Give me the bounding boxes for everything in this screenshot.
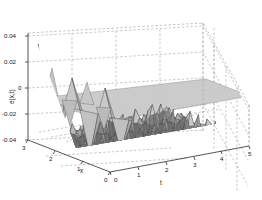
z-tick-0: 0.04 bbox=[4, 33, 16, 39]
surface-mesh bbox=[31, 44, 250, 180]
z-tick-2: 0 bbox=[18, 85, 21, 91]
figure-canvas: 0.04 0.02 0 -0.02 -0.04 3 2 1 0 0 1 2 3 … bbox=[0, 0, 262, 200]
surface-plot-svg bbox=[0, 0, 262, 200]
t-tick-2: 2 bbox=[165, 167, 168, 173]
x-axis-label: x bbox=[80, 168, 83, 174]
t-tick-1: 1 bbox=[137, 172, 140, 178]
t-tick-5: 5 bbox=[248, 151, 251, 157]
mesh-dense-oscillations bbox=[45, 104, 249, 180]
x-tick-0: 0 bbox=[104, 177, 107, 183]
t-tick-4: 4 bbox=[220, 156, 223, 162]
z-axis-label: e(x,t) bbox=[9, 89, 15, 104]
z-axis-ticks bbox=[25, 36, 28, 140]
z-tick-3: -0.02 bbox=[2, 111, 16, 117]
x-tick-3: 3 bbox=[22, 145, 25, 151]
t-tick-0: 0 bbox=[114, 177, 117, 183]
t-axis-label: t bbox=[160, 180, 162, 186]
z-tick-4: -0.04 bbox=[2, 137, 16, 143]
x-tick-2: 2 bbox=[49, 156, 52, 162]
x-axis-ticks bbox=[26, 140, 110, 175]
t-tick-3: 3 bbox=[193, 162, 196, 168]
z-tick-1: 0.02 bbox=[4, 59, 16, 65]
